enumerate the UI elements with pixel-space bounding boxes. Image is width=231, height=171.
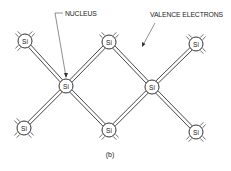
valence-electrons-callout: VALENCE ELECTRONS xyxy=(142,11,224,47)
atom-symbol: Si xyxy=(106,39,112,46)
atom-mid-right: Si xyxy=(145,80,159,94)
valence-arrowhead-icon xyxy=(142,42,146,47)
valence-leader-line xyxy=(143,23,155,45)
valence-electron-stub xyxy=(202,136,205,139)
valence-electron-stub xyxy=(115,35,118,38)
atom-symbol: Si xyxy=(193,129,199,136)
bond-line xyxy=(113,91,146,124)
valence-electron-stub xyxy=(115,134,118,137)
atom-symbol: Si xyxy=(21,125,27,132)
valence-electron-stub xyxy=(18,31,21,34)
bond-line xyxy=(156,93,190,128)
bond-line xyxy=(70,92,103,126)
atom-symbol: Si xyxy=(149,84,155,91)
valence-electron-stub xyxy=(17,118,20,121)
atom-mid-left: Si xyxy=(59,79,73,93)
atom-top-right: Si xyxy=(186,34,205,53)
valence-electron-stub xyxy=(113,136,116,139)
valence-electron-stub xyxy=(200,34,203,37)
valence-electron-stub xyxy=(30,132,33,135)
atom-symbol: Si xyxy=(63,83,69,90)
valence-electron-stub xyxy=(202,125,205,128)
bond-line xyxy=(158,91,192,126)
valence-electron-stub xyxy=(200,50,203,53)
atom-symbol: Si xyxy=(106,127,112,134)
atom-top-left: Si xyxy=(15,31,34,50)
valence-electron-stub xyxy=(17,134,20,137)
bond-line xyxy=(72,90,105,124)
bond-line xyxy=(72,48,105,82)
nucleus-arrowhead-icon xyxy=(64,73,68,78)
valence-electron-stub xyxy=(29,31,32,34)
valence-electron-stub xyxy=(15,45,18,48)
bond-line xyxy=(113,48,146,83)
nucleus-leader-line xyxy=(55,13,66,77)
valence-electron-stub xyxy=(99,35,102,38)
valence-electron-stub xyxy=(200,122,203,125)
silicon-lattice-diagram: SiSiSiSiSiSiSiSi NUCLEUS VALENCE ELECTRO… xyxy=(0,0,231,171)
valence-electron-stub xyxy=(186,37,189,40)
bond-line xyxy=(30,92,62,124)
nucleus-label: NUCLEUS xyxy=(65,10,97,17)
valence-electron-stub xyxy=(202,48,205,51)
atom-bottom-left: Si xyxy=(14,118,33,137)
valence-electron-stub xyxy=(102,32,105,35)
covalent-bonds xyxy=(28,45,192,128)
valence-electron-stub xyxy=(14,121,17,124)
bond-line xyxy=(156,48,190,81)
bond-line xyxy=(70,46,103,80)
valence-electron-stub xyxy=(99,134,102,137)
valence-electron-stub xyxy=(28,134,31,137)
atom-symbol: Si xyxy=(193,41,199,48)
bond-line xyxy=(31,45,63,80)
valence-electron-stub xyxy=(18,47,21,50)
atom-symbol: Si xyxy=(22,38,28,45)
bond-line xyxy=(115,93,148,126)
valence-electron-stub xyxy=(202,37,205,40)
valence-electron-stub xyxy=(186,136,189,139)
valence-electron-stub xyxy=(102,136,105,139)
valence-electron-stub xyxy=(113,32,116,35)
valence-electron-stub xyxy=(200,138,203,141)
valence-electron-stub xyxy=(189,138,192,141)
bond-line xyxy=(115,46,148,81)
atom-bottom-right: Si xyxy=(186,122,205,141)
bond-line xyxy=(28,90,60,122)
silicon-atoms: SiSiSiSiSiSiSiSi xyxy=(14,31,205,141)
bond-line xyxy=(29,47,61,82)
valence-electrons-label: VALENCE ELECTRONS xyxy=(150,11,224,18)
valence-electron-stub xyxy=(14,132,17,135)
valence-electron-stub xyxy=(15,34,18,37)
valence-electron-stub xyxy=(31,34,34,37)
bond-line xyxy=(158,50,192,83)
nucleus-callout: NUCLEUS xyxy=(55,10,97,78)
figure-caption: (b) xyxy=(106,151,115,159)
valence-electron-stub xyxy=(189,34,192,37)
